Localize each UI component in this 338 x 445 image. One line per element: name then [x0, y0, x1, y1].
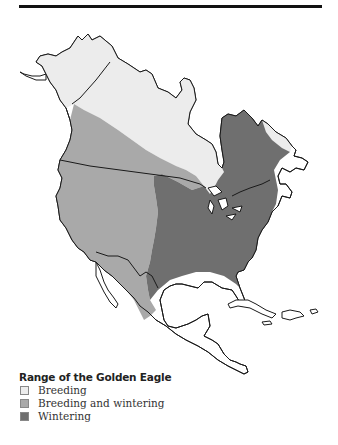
legend-item-wintering: Wintering — [19, 410, 239, 423]
alaska-peninsula-outline — [20, 72, 46, 80]
cuba-outline — [228, 300, 276, 318]
legend-label-breeding-and-wintering: Breeding and wintering — [38, 397, 165, 410]
legend-label-breeding: Breeding — [38, 384, 87, 397]
legend-swatch-breeding — [20, 386, 29, 395]
puerto-rico-outline — [310, 309, 318, 314]
range-fills — [36, 34, 292, 320]
hispaniola-outline — [282, 310, 304, 320]
legend-swatch-wintering — [20, 412, 29, 421]
legend: Range of the Golden Eagle Breeding Breed… — [19, 371, 239, 423]
legend-swatch-breeding-and-wintering — [20, 399, 29, 408]
legend-title: Range of the Golden Eagle — [19, 371, 239, 384]
legend-item-breeding-and-wintering: Breeding and wintering — [19, 397, 239, 410]
jamaica-outline — [262, 321, 272, 325]
legend-label-wintering: Wintering — [38, 410, 91, 423]
legend-item-breeding: Breeding — [19, 384, 239, 397]
